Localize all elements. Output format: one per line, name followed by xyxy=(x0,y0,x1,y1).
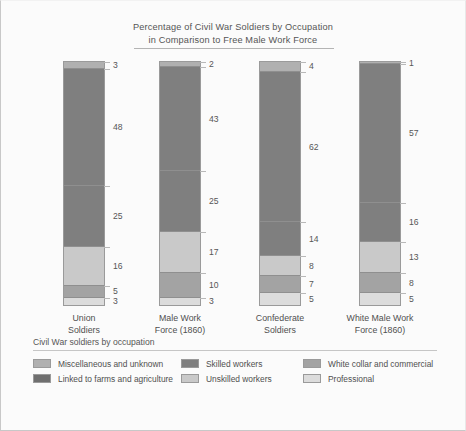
segment-value-label: 16 xyxy=(409,217,419,227)
legend-item[interactable]: Unskilled workers xyxy=(181,374,303,384)
bar-segment[interactable]: 62 xyxy=(260,72,300,223)
segment-value-label: 17 xyxy=(209,247,219,257)
legend-swatch-icon xyxy=(303,374,321,383)
bar-segment[interactable]: 3 xyxy=(64,298,104,305)
segment-tick xyxy=(200,232,206,233)
segment-tick xyxy=(200,298,206,299)
segment-tick xyxy=(300,72,306,73)
segment-tick xyxy=(104,62,110,63)
segment-tick xyxy=(200,67,206,68)
legend-item-label: Skilled workers xyxy=(206,359,262,369)
legend-item-label: White collar and commercial xyxy=(328,359,433,369)
segment-tick xyxy=(400,273,406,274)
segment-tick xyxy=(200,62,206,63)
plot-area: 348251653UnionSoldiers2432517103Male Wor… xyxy=(1,61,466,306)
stacked-bar[interactable]: 348251653 xyxy=(63,61,105,306)
segment-value-label: 3 xyxy=(113,60,118,70)
segment-tick xyxy=(200,171,206,172)
segment-value-label: 62 xyxy=(309,142,319,152)
bar-segment[interactable]: 4 xyxy=(260,62,300,72)
bar-segment[interactable]: 5 xyxy=(360,293,400,305)
bar-segment[interactable]: 48 xyxy=(64,69,104,186)
segment-value-label: 57 xyxy=(409,128,419,138)
bar-segment[interactable]: 7 xyxy=(260,276,300,293)
bar-segment[interactable]: 25 xyxy=(64,186,104,247)
bar-segment[interactable]: 16 xyxy=(64,247,104,286)
legend-items: Miscellaneous and unknownSkilled workers… xyxy=(33,356,437,386)
legend-swatch-icon xyxy=(181,359,199,368)
legend-item-label: Professional xyxy=(328,374,374,384)
bar-segment[interactable]: 8 xyxy=(360,273,400,292)
segment-tick xyxy=(400,242,406,243)
bar-segment[interactable]: 14 xyxy=(260,222,300,256)
segment-tick xyxy=(200,273,206,274)
bar-group: 348251653UnionSoldiers xyxy=(63,61,105,306)
category-label-line: White Male Work xyxy=(320,313,440,325)
bar-segment[interactable]: 25 xyxy=(160,171,200,232)
segment-value-label: 5 xyxy=(409,294,414,304)
bar-segment[interactable]: 8 xyxy=(260,256,300,275)
segment-value-label: 3 xyxy=(113,296,118,306)
title-divider xyxy=(134,48,334,49)
chart-title-line-2: in Comparison to Free Male Work Force xyxy=(1,34,465,47)
stacked-bar[interactable]: 46214875 xyxy=(259,61,301,306)
legend-item[interactable]: Skilled workers xyxy=(181,359,303,369)
bar-segment[interactable]: 57 xyxy=(360,64,400,203)
legend-divider xyxy=(33,350,437,351)
category-label-line: Force (1860) xyxy=(320,325,440,337)
segment-tick xyxy=(300,256,306,257)
segment-tick xyxy=(104,247,110,248)
segment-value-label: 43 xyxy=(209,114,219,124)
stacked-bar[interactable]: 2432517103 xyxy=(159,61,201,306)
legend-item-label: Miscellaneous and unknown xyxy=(58,359,163,369)
bar-group: 2432517103Male WorkForce (1860) xyxy=(159,61,201,306)
bar-segment[interactable]: 10 xyxy=(160,273,200,297)
segment-value-label: 16 xyxy=(113,261,123,271)
bar-segment[interactable]: 5 xyxy=(64,286,104,298)
chart-title-line-1: Percentage of Civil War Soldiers by Occu… xyxy=(1,21,465,34)
segment-tick xyxy=(300,222,306,223)
segment-value-label: 5 xyxy=(309,294,314,304)
legend-swatch-icon xyxy=(33,359,51,368)
segment-value-label: 14 xyxy=(309,234,319,244)
bar-segment[interactable]: 3 xyxy=(64,62,104,69)
bar-segment[interactable]: 13 xyxy=(360,242,400,274)
legend-item-label: Unskilled workers xyxy=(206,374,272,384)
segment-value-label: 4 xyxy=(309,61,314,71)
legend-title: Civil War soldiers by occupation xyxy=(33,337,437,347)
bar-segment[interactable]: 17 xyxy=(160,232,200,273)
segment-tick xyxy=(300,62,306,63)
legend-swatch-icon xyxy=(33,374,51,383)
stacked-bar[interactable]: 157161385 xyxy=(359,61,401,306)
segment-tick xyxy=(400,62,406,63)
chart-figure: Percentage of Civil War Soldiers by Occu… xyxy=(0,0,466,431)
segment-value-label: 25 xyxy=(209,196,219,206)
legend-item[interactable]: Professional xyxy=(303,374,437,384)
bar-group: 157161385White Male WorkForce (1860) xyxy=(359,61,401,306)
segment-value-label: 3 xyxy=(209,296,214,306)
chart-title: Percentage of Civil War Soldiers by Occu… xyxy=(1,21,465,46)
segment-value-label: 2 xyxy=(209,59,214,69)
segment-value-label: 1 xyxy=(409,58,414,68)
legend-swatch-icon xyxy=(181,374,199,383)
bar-segment[interactable]: 3 xyxy=(160,298,200,305)
segment-value-label: 8 xyxy=(309,261,314,271)
segment-value-label: 48 xyxy=(113,122,123,132)
bar-segment[interactable]: 16 xyxy=(360,203,400,242)
segment-value-label: 5 xyxy=(113,286,118,296)
bar-segment[interactable]: 5 xyxy=(260,293,300,305)
bar-segment[interactable]: 43 xyxy=(160,67,200,171)
legend-item[interactable]: Miscellaneous and unknown xyxy=(33,359,181,369)
segment-tick xyxy=(104,286,110,287)
segment-tick xyxy=(104,298,110,299)
segment-tick xyxy=(104,186,110,187)
segment-value-label: 13 xyxy=(409,252,419,262)
legend-swatch-icon xyxy=(303,359,321,368)
segment-value-label: 7 xyxy=(309,279,314,289)
legend-item[interactable]: Linked to farms and agriculture xyxy=(33,374,181,384)
segment-tick xyxy=(400,203,406,204)
segment-value-label: 10 xyxy=(209,280,219,290)
bar-group: 46214875ConfederateSoldiers xyxy=(259,61,301,306)
segment-tick xyxy=(300,293,306,294)
legend-item[interactable]: White collar and commercial xyxy=(303,359,437,369)
